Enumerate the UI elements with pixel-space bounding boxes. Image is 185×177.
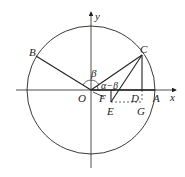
label-D: D <box>130 92 139 104</box>
label-beta: β <box>90 67 97 79</box>
label-A: A <box>152 92 160 104</box>
segment-OB <box>36 56 91 90</box>
label-B: B <box>29 46 36 58</box>
diagram: y x O A B C D E F G β α−β <box>0 0 185 177</box>
label-x: x <box>169 91 175 103</box>
label-alpha-minus-beta: α−β <box>101 80 118 91</box>
unit-circle-diagram: y x O A B C D E F G β α−β <box>0 0 185 177</box>
label-G: G <box>137 105 145 117</box>
label-O: O <box>78 92 86 104</box>
label-F: F <box>98 92 106 104</box>
label-C: C <box>140 43 148 55</box>
label-y: y <box>94 10 100 22</box>
label-E: E <box>106 105 114 117</box>
